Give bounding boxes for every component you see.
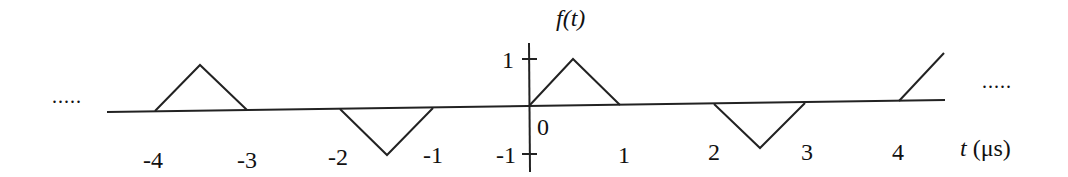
pulse-rising-edge (899, 53, 944, 101)
left-continuation: ..... (52, 86, 82, 106)
x-tick-label-minus-1: -1 (423, 143, 443, 167)
y-tick-label-minus-1: -1 (496, 143, 516, 167)
waveform-chart: ..... ..... f(t) 1 -1 0 -4 -3 -2 -1 1 2 … (0, 0, 1068, 177)
x-tick-label-2: 2 (708, 140, 720, 164)
x-axis (107, 100, 945, 112)
y-axis (529, 43, 530, 172)
x-tick-label-3: 3 (801, 140, 813, 164)
y-tick-label-1: 1 (502, 48, 514, 72)
x-axis-variable: t (960, 135, 967, 161)
pulse-positive-1 (155, 65, 247, 111)
origin-label: 0 (537, 115, 549, 139)
pulse-negative-2 (714, 103, 805, 148)
x-tick-label-minus-4: -4 (143, 148, 163, 172)
x-axis-unit: (μs) (973, 135, 1011, 161)
pulse-positive-2 (529, 59, 620, 106)
x-tick-label-1: 1 (618, 143, 630, 167)
y-axis-label: f(t) (556, 6, 585, 30)
x-tick-label-4: 4 (892, 140, 904, 164)
x-tick-label-minus-2: -2 (328, 145, 348, 169)
x-tick-label-minus-3: -3 (237, 148, 257, 172)
x-axis-label: t (μs) (960, 136, 1011, 160)
pulse-negative-1 (340, 108, 433, 155)
right-continuation: ..... (982, 71, 1012, 91)
